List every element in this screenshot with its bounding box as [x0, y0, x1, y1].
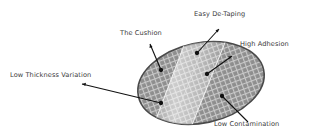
diagram-stage: Easy De-Taping The Cushion High Adhesion…	[0, 0, 310, 140]
label-the-cushion: The Cushion	[120, 29, 162, 37]
wafer-illustration	[0, 0, 310, 140]
label-low-thickness-variation: Low Thickness Variation	[10, 71, 91, 79]
label-low-contamination: Low Contamination	[214, 120, 279, 128]
label-easy-de-taping: Easy De-Taping	[194, 10, 245, 18]
label-high-adhesion: High Adhesion	[240, 40, 289, 48]
